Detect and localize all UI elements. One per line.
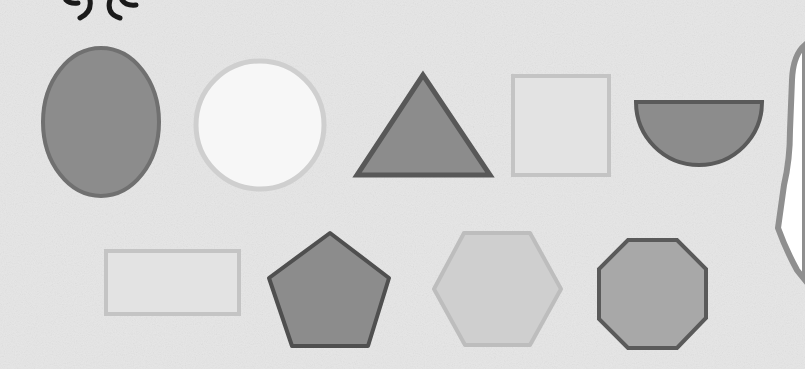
shapes-canvas bbox=[0, 0, 805, 369]
shape-circle bbox=[196, 61, 324, 189]
shape-rectangle bbox=[106, 251, 239, 314]
shapes-page: Shapes worksheet bbox=[0, 0, 805, 369]
shape-square bbox=[513, 76, 609, 175]
shape-octagon bbox=[599, 240, 706, 348]
shape-oval bbox=[43, 48, 159, 196]
